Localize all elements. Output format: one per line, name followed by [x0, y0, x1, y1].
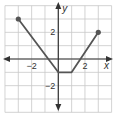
y-axis-label: y	[61, 3, 68, 14]
x-axis-label: x	[103, 60, 110, 71]
closed-endpoint-dot	[16, 16, 21, 21]
coordinate-graph: xy−222−2	[0, 0, 116, 113]
x-tick-label: −2	[27, 61, 37, 71]
y-tick-label: 2	[50, 27, 55, 37]
graph-canvas: xy−222−2	[0, 0, 116, 113]
y-axis-down-arrow-icon	[55, 104, 61, 111]
closed-endpoint-dot	[96, 30, 101, 35]
x-axis-left-arrow-icon	[3, 56, 10, 62]
x-tick-label: 2	[82, 61, 87, 71]
y-tick-label: −2	[45, 81, 55, 91]
